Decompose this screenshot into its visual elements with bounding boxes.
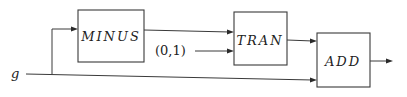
wire-g-to-add bbox=[26, 74, 313, 80]
arrow-into-add-bottom bbox=[310, 78, 317, 83]
arrow-into-tran-bottom bbox=[227, 49, 234, 54]
block-add: ADD bbox=[317, 33, 370, 87]
wire-tran-to-add bbox=[287, 40, 313, 41]
wire-minus-to-tran bbox=[144, 30, 230, 32]
arrow-into-tran-top bbox=[227, 30, 234, 35]
input-label-g: g bbox=[11, 66, 19, 81]
block-tran: TRAN bbox=[234, 12, 287, 65]
block-diagram: g MINUS (0,1) TRAN ADD bbox=[0, 0, 407, 97]
block-add-label: ADD bbox=[324, 54, 361, 69]
arrow-into-add-top bbox=[310, 39, 317, 44]
block-minus: MINUS bbox=[78, 10, 144, 62]
arrow-into-minus bbox=[71, 27, 78, 32]
block-minus-label: MINUS bbox=[80, 29, 141, 44]
arrow-output bbox=[386, 59, 393, 64]
constant-label: (0,1) bbox=[155, 43, 186, 58]
wire-g-to-minus bbox=[52, 29, 74, 74]
block-tran-label: TRAN bbox=[236, 33, 283, 48]
